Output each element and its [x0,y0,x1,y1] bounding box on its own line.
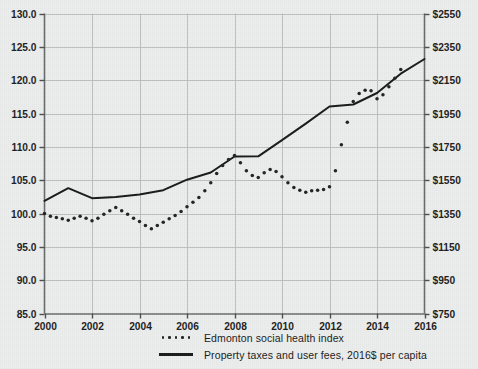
data-point-social-health-index [90,219,94,223]
data-point-social-health-index [185,205,189,209]
y-axis-left-tick-label: 115.0 [12,109,37,120]
y-axis-left-tick-label: 125.0 [11,42,37,53]
y-axis-right-tick-label: $1750 [433,142,462,153]
data-point-social-health-index [227,158,231,162]
y-axis-right-tick-label: $1550 [433,175,462,186]
y-axis-left-tick-label: 105.0 [11,175,37,186]
data-point-social-health-index [144,224,148,228]
legend-item-property-taxes: Property taxes and user fees, 2016$ per … [0,346,478,363]
data-point-social-health-index [233,154,237,158]
y-axis-left-tick-label: 100.0 [11,209,37,220]
data-point-social-health-index [203,189,207,193]
data-point-social-health-index [49,214,53,218]
series-social-health-index-dots [43,68,403,231]
solid-line-marker-icon [148,353,204,355]
y-axis-left-tick-label: 120.0 [11,75,37,86]
data-point-social-health-index [286,181,290,185]
data-point-social-health-index [274,170,278,174]
data-point-social-health-index [209,181,213,185]
dotted-marker-icon [148,336,204,339]
y-axis-right-tick-label: $2550 [433,9,462,20]
y-axis-right-tick-label: $1350 [433,209,462,220]
data-point-social-health-index [298,188,302,192]
data-point-social-health-index [156,224,160,228]
data-point-social-health-index [72,216,76,220]
y-axis-left-labels: 85.090.095.0100.0105.0110.0115.0120.0125… [11,9,37,320]
data-point-social-health-index [251,174,255,178]
chart-container: 85.090.095.0100.0105.0110.0115.0120.0125… [0,0,478,369]
data-point-social-health-index [132,216,136,220]
data-point-social-health-index [245,169,249,173]
grid-lines [45,14,425,314]
data-point-social-health-index [292,186,296,190]
data-point-social-health-index [55,216,59,220]
y-axis-right-tick-label: $750 [433,309,456,320]
data-point-social-health-index [387,85,391,89]
data-point-social-health-index [239,161,243,165]
data-point-social-health-index [328,185,332,189]
data-point-social-health-index [393,76,397,80]
data-point-social-health-index [102,212,106,216]
data-point-social-health-index [375,97,379,101]
data-point-social-health-index [257,176,261,180]
data-point-social-health-index [120,209,124,213]
data-point-social-health-index [84,216,88,220]
data-point-social-health-index [310,189,314,193]
chart-plot: 85.090.095.0100.0105.0110.0115.0120.0125… [0,0,478,369]
data-point-social-health-index [369,89,373,93]
data-point-social-health-index [114,206,118,210]
y-axis-right-tick-label: $950 [433,275,456,286]
axis-lines [45,14,425,315]
data-point-social-health-index [363,88,367,92]
data-point-social-health-index [43,212,47,216]
data-point-social-health-index [173,214,177,218]
data-point-social-health-index [61,217,64,221]
y-axis-right-tick-label: $1150 [433,242,461,253]
data-point-social-health-index [399,68,403,72]
y-axis-right-labels: $750$950$1150$1350$1550$1750$1950$2150$2… [433,9,462,320]
y-axis-right-tick-label: $2350 [433,42,462,53]
data-point-social-health-index [322,188,326,192]
data-point-social-health-index [316,188,320,192]
legend-label-property-taxes: Property taxes and user fees, 2016$ per … [204,349,427,361]
data-point-social-health-index [215,172,219,176]
axis-ticks [40,15,430,319]
y-axis-right-tick-label: $1950 [433,109,462,120]
data-point-social-health-index [381,93,385,97]
data-point-social-health-index [191,200,195,204]
data-point-social-health-index [179,210,183,214]
y-axis-right-tick-label: $2150 [433,75,462,86]
y-axis-left-tick-label: 95.0 [17,242,37,253]
data-point-social-health-index [162,220,166,224]
y-axis-left-tick-label: 110.0 [12,142,37,153]
data-point-social-health-index [268,168,272,172]
data-point-social-health-index [262,171,266,175]
legend-item-social-health-index: Edmonton social health index [0,329,478,346]
data-point-social-health-index [352,100,356,104]
data-point-social-health-index [67,218,71,222]
data-point-social-health-index [357,92,361,96]
data-point-social-health-index [78,214,82,218]
chart-legend: Edmonton social health index Property ta… [0,329,478,363]
data-point-social-health-index [96,216,100,220]
data-point-social-health-index [126,212,130,216]
data-point-social-health-index [334,169,338,173]
data-point-social-health-index [280,175,284,179]
data-point-social-health-index [221,164,225,168]
data-point-social-health-index [304,190,308,194]
data-point-social-health-index [346,120,350,124]
y-axis-left-tick-label: 130.0 [11,9,37,20]
data-point-social-health-index [167,217,171,221]
data-point-social-health-index [150,227,154,231]
y-axis-left-tick-label: 90.0 [17,275,37,286]
data-point-social-health-index [340,143,344,147]
data-point-social-health-index [197,196,201,200]
data-point-social-health-index [138,220,142,224]
y-axis-left-tick-label: 85.0 [17,309,37,320]
legend-label-social-health-index: Edmonton social health index [204,332,344,344]
data-point-social-health-index [108,209,112,213]
